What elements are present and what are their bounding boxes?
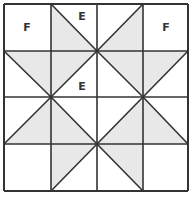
cell-label-e-top: E bbox=[78, 10, 86, 23]
grid-lines bbox=[4, 4, 188, 191]
cell-label-e-center: E bbox=[78, 80, 86, 93]
quilt-diagram: FEFE bbox=[0, 0, 192, 198]
cell-label-f-top-left: F bbox=[23, 21, 31, 34]
cell-label-f-top-right: F bbox=[162, 21, 170, 34]
